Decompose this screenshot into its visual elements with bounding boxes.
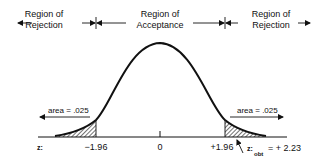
svg-text:Region of: Region of xyxy=(252,9,291,19)
right-area-label: area = .025 xyxy=(237,106,278,115)
svg-text:Region of: Region of xyxy=(25,9,64,19)
left-area-label: area = .025 xyxy=(48,106,89,115)
svg-text:= + 2.23: = + 2.23 xyxy=(268,143,301,153)
tick-label-zero: 0 xyxy=(157,142,162,152)
svg-text:Region of: Region of xyxy=(141,9,180,19)
svg-text:Rejection: Rejection xyxy=(25,20,63,30)
svg-text:z:: z: xyxy=(247,145,253,152)
svg-text:Acceptance: Acceptance xyxy=(136,20,183,30)
normal-curve xyxy=(55,43,266,136)
axis-variable-label: z: xyxy=(37,144,43,151)
svg-text:Rejection: Rejection xyxy=(252,20,290,30)
observed-z-label: z: obt = + 2.23 xyxy=(247,143,301,157)
tick-label-neg: −1.96 xyxy=(85,142,108,152)
right-rejection-label: Region of Rejection xyxy=(252,9,291,30)
left-rejection-label: Region of Rejection xyxy=(25,9,64,30)
acceptance-label: Region of Acceptance xyxy=(136,9,183,30)
svg-text:obt: obt xyxy=(254,151,263,157)
observed-arrow-icon xyxy=(237,140,243,153)
tick-label-pos: +1.96 xyxy=(211,142,234,152)
normal-distribution-diagram: Region of Rejection Region of Acceptance… xyxy=(0,0,325,166)
